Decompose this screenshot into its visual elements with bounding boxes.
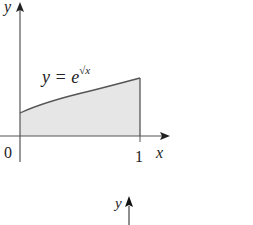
- x-axis-label: x: [155, 144, 163, 161]
- y-axis-label: y: [2, 0, 12, 16]
- curve-label-lhs: y = e: [40, 67, 79, 87]
- shaded-area: [20, 78, 140, 136]
- x-tick-label: 1: [135, 148, 143, 165]
- origin-label: 0: [4, 144, 12, 161]
- curve-label: y = e√x: [40, 64, 90, 87]
- curve-label-exponent: √x: [79, 64, 90, 76]
- y-axis-label-bottom: y: [113, 195, 122, 211]
- figure: y x 0 1 y = e√x y: [0, 0, 253, 225]
- top-plot: y x 0 1 y = e√x: [0, 0, 170, 165]
- y-axis-arrow-icon-bottom: [125, 196, 133, 207]
- bottom-plot: y: [113, 195, 133, 225]
